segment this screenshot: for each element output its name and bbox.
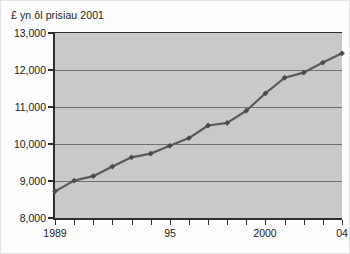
- data-point-marker: [148, 151, 154, 157]
- series-markers: [52, 50, 345, 194]
- chart-figure: £ yn ôl prisiau 2001 8,0009,00010,00011,…: [0, 0, 350, 254]
- series-line-layer: [0, 0, 350, 254]
- data-point-marker: [167, 143, 173, 149]
- series-line: [55, 53, 342, 191]
